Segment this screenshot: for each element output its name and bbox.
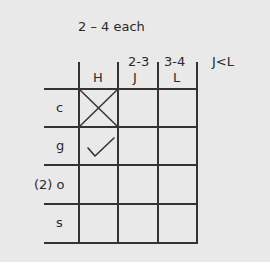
column-header-j: J [133,71,137,85]
column-header-h: H [93,71,103,85]
range-j: 2-3 [128,55,149,69]
grid-line [44,88,198,90]
logic-game-sketch: 2 – 4 each 2-3 3-4 J<L H J L c g (2) o s [0,0,270,268]
row-label-g: g [56,139,64,153]
column-header-l: L [173,71,180,85]
row-label-c: c [56,101,63,115]
x-mark-icon [79,89,118,127]
row-label-s: s [56,216,63,230]
constraint-note: J<L [212,55,234,69]
title-note: 2 – 4 each [78,20,145,34]
row-label-o: (2) o [34,178,65,192]
check-mark-icon [86,134,116,160]
grid-line [44,164,198,166]
paper-background [0,0,270,262]
range-l: 3-4 [164,55,185,69]
grid-line [44,203,198,205]
grid-line [44,242,198,244]
grid-line [44,126,198,128]
